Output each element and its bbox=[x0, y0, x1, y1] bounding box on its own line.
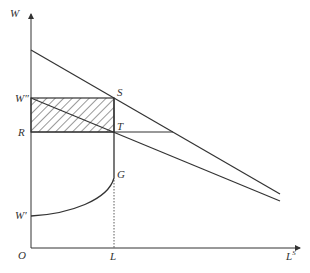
label-l: L bbox=[109, 250, 116, 262]
label-s: S bbox=[117, 86, 123, 98]
x-axis-label-sup: S bbox=[292, 249, 296, 257]
label-w-double-prime: W″ bbox=[15, 92, 29, 104]
labor-supply-diagram: W W″ R W′ O S T G L LS bbox=[0, 0, 310, 273]
x-axis-label-main: L bbox=[285, 250, 292, 262]
origin-label: O bbox=[18, 249, 26, 261]
diagram-canvas: W W″ R W′ O S T G L LS bbox=[0, 0, 310, 273]
y-axis-label: W bbox=[10, 7, 20, 19]
label-w-prime: W′ bbox=[15, 209, 27, 221]
x-axis-label: LS bbox=[285, 249, 296, 262]
lower-line bbox=[31, 98, 280, 201]
label-r: R bbox=[17, 126, 25, 138]
label-t: T bbox=[117, 120, 124, 132]
label-g: G bbox=[117, 168, 125, 180]
